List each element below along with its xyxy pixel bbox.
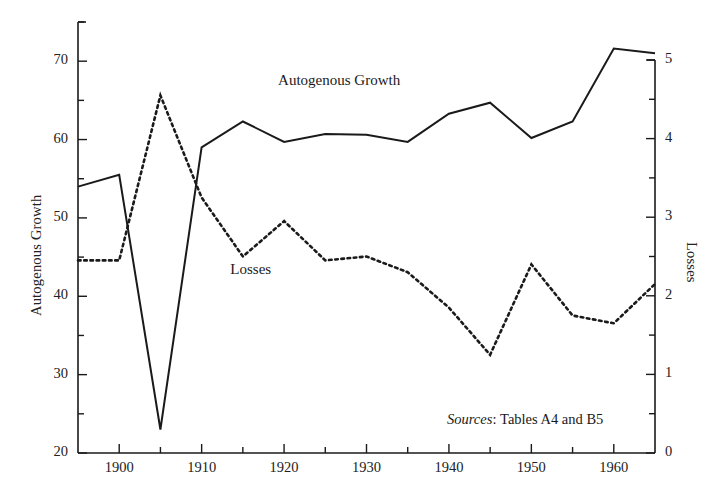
series-label-losses: Losses <box>230 261 271 278</box>
x-axis-tick-label: 1940 <box>419 459 479 476</box>
source-note-value: Tables A4 and B5 <box>500 411 603 427</box>
data-series-group <box>78 49 655 430</box>
x-axis-tick-label: 1910 <box>172 459 232 476</box>
x-axis-tick-label: 1930 <box>337 459 397 476</box>
x-axis-tick-label: 1920 <box>254 459 314 476</box>
y-axis-right-tick-label: 4 <box>665 129 689 146</box>
figure-container: Autogenous Growth Losses 203040506070 01… <box>0 0 711 489</box>
y-axis-left-tick-label: 40 <box>34 286 68 303</box>
y-axis-left-tick-label: 50 <box>34 208 68 225</box>
y-axis-right-tick-label: 0 <box>665 443 689 460</box>
y-axis-right-tick-label: 1 <box>665 364 689 381</box>
y-axis-right-tick-label: 2 <box>665 286 689 303</box>
x-axis-tick-label: 1900 <box>89 459 149 476</box>
y-axis-right-title: Losses <box>683 242 700 283</box>
x-axis-tick-label: 1960 <box>584 459 644 476</box>
source-note: Sources: Tables A4 and B5 <box>447 411 603 428</box>
y-axis-left-tick-label: 70 <box>34 51 68 68</box>
y-axis-left-tick-label: 60 <box>34 130 68 147</box>
y-axis-right-tick-label: 3 <box>665 207 689 224</box>
source-note-label: Sources <box>447 411 492 427</box>
y-axis-left-tick-label: 30 <box>34 365 68 382</box>
series-label-autogenous-growth: Autogenous Growth <box>278 72 400 89</box>
y-axis-left-tick-label: 20 <box>34 443 68 460</box>
x-axis-tick-label: 1950 <box>501 459 561 476</box>
y-axis-right-tick-label: 5 <box>665 50 689 67</box>
